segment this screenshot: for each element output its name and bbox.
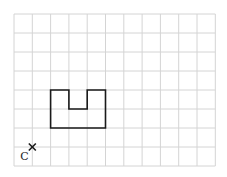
grid-lines xyxy=(14,14,215,166)
point-label-c: C xyxy=(20,150,28,163)
grid-diagram: C xyxy=(0,0,227,177)
